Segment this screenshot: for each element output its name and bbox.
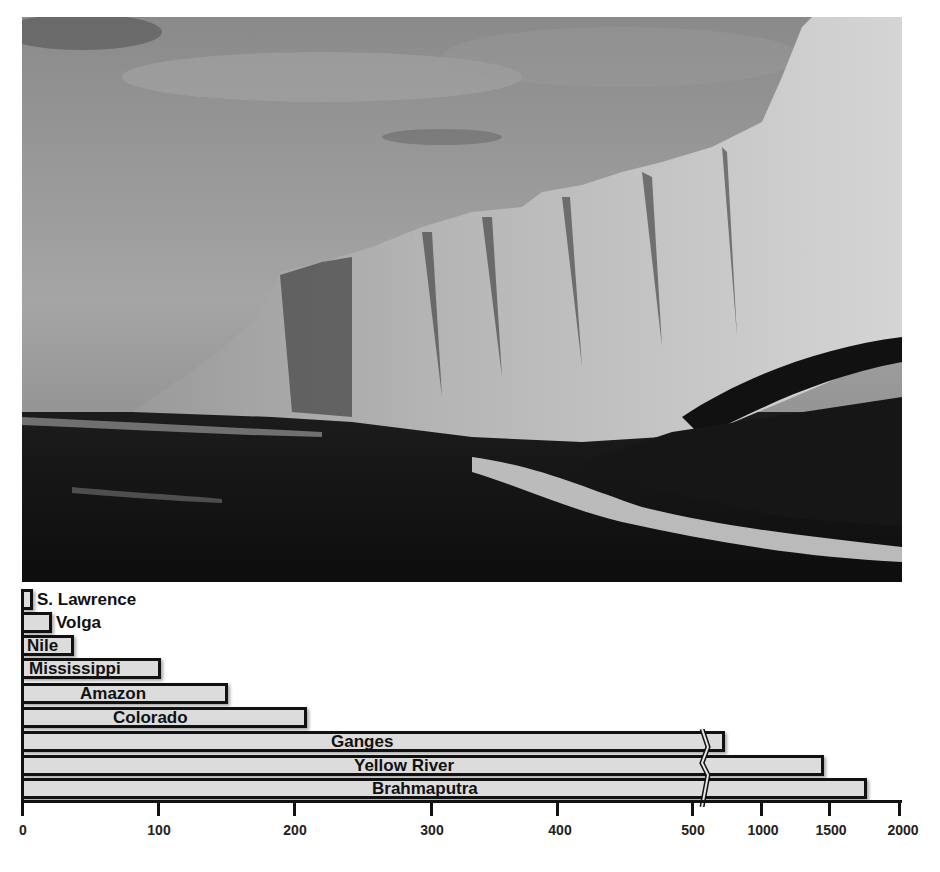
x-tick [898, 802, 901, 816]
x-tick-label: 100 [147, 822, 170, 838]
x-tick-label: 0 [19, 822, 27, 838]
x-tick-label: 500 [681, 822, 704, 838]
x-tick [760, 802, 763, 816]
bar-label-ganges: Ganges [331, 731, 393, 752]
x-tick [828, 802, 831, 816]
x-tick-label: 200 [283, 822, 306, 838]
bar-s-lawrence [21, 589, 33, 610]
axis-break-icon [696, 729, 718, 807]
x-tick-label: 1000 [747, 822, 778, 838]
x-tick [430, 802, 433, 816]
river-bar-chart: S. Lawrence Volga Nile Mississippi Amazo… [0, 585, 940, 872]
x-tick [157, 802, 160, 816]
bar-label-brahmaputra: Brahmaputra [372, 778, 478, 799]
bar-label-amazon: Amazon [80, 683, 146, 704]
bar-label-nile: Nile [27, 635, 58, 656]
bar-label-volga: Volga [56, 612, 101, 633]
x-tick-label: 1500 [815, 822, 846, 838]
x-tick [691, 802, 694, 816]
x-tick [556, 802, 559, 816]
bar-volga [21, 612, 52, 633]
x-tick-label: 400 [548, 822, 571, 838]
bar-label-mississippi: Mississippi [29, 658, 121, 679]
x-tick [21, 802, 24, 816]
cliff-photo [22, 17, 902, 582]
x-tick-label: 300 [420, 822, 443, 838]
bar-label-yellow-river: Yellow River [354, 755, 454, 776]
x-tick-label: 2000 [887, 822, 918, 838]
x-axis-line [21, 800, 902, 803]
bar-label-colorado: Colorado [113, 707, 188, 728]
x-tick [293, 802, 296, 816]
bar-label-s-lawrence: S. Lawrence [37, 589, 136, 610]
